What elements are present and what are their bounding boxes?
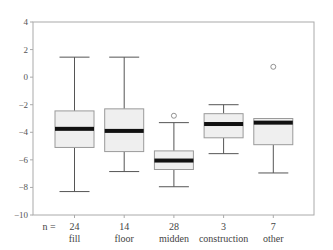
median-line — [254, 121, 293, 125]
median-line — [204, 122, 243, 126]
median-line — [154, 159, 193, 163]
category-label: other — [263, 233, 284, 244]
category-label: construction — [199, 233, 248, 244]
outlier-point — [271, 64, 276, 69]
box-plot-chart: 420−2−4−6−8−10 n =24fill14floor28midden3… — [0, 0, 333, 250]
y-tick-label: −4 — [18, 127, 28, 137]
box-floor — [105, 57, 144, 218]
n-count-label: 14 — [119, 221, 129, 232]
box-fill — [55, 57, 94, 218]
y-axis: 420−2−4−6−8−10 — [14, 17, 33, 220]
y-tick-label: −10 — [14, 210, 29, 220]
median-line — [105, 129, 144, 133]
category-label: floor — [114, 233, 134, 244]
x-axis-labels: n =24fill14floor28midden3construction7ot… — [42, 221, 284, 244]
n-prefix-label: n = — [42, 221, 56, 232]
y-tick-label: −6 — [18, 155, 28, 165]
box-other — [254, 64, 293, 218]
category-label: fill — [69, 233, 81, 244]
median-line — [55, 127, 94, 131]
n-count-label: 3 — [221, 221, 226, 232]
y-tick-label: 4 — [24, 17, 29, 27]
box-construction — [204, 105, 243, 218]
n-count-label: 7 — [271, 221, 276, 232]
y-tick-label: 2 — [24, 45, 29, 55]
outlier-point — [171, 113, 176, 118]
box-midden — [154, 113, 193, 218]
y-tick-label: −2 — [18, 100, 28, 110]
category-label: midden — [159, 233, 189, 244]
y-tick-label: −8 — [18, 182, 28, 192]
n-count-label: 24 — [70, 221, 80, 232]
boxes — [55, 57, 293, 218]
y-tick-label: 0 — [24, 72, 29, 82]
n-count-label: 28 — [169, 221, 179, 232]
